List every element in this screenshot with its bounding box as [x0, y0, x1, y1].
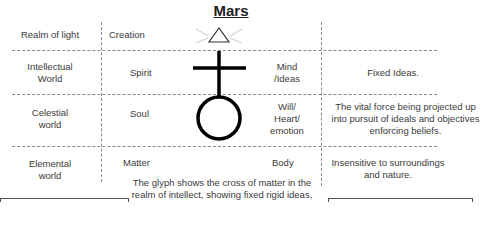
triangle-icon: [209, 28, 229, 42]
aspect-label-spirit: Spirit: [130, 67, 152, 79]
realm-label-celestial: Celestial world: [0, 107, 100, 131]
glyph-description: The glyph shows the cross of matter in t…: [122, 177, 322, 201]
bottom-right-box: [328, 198, 473, 202]
realm-label-light: Realm of light: [0, 29, 100, 41]
bottom-left-box: [0, 198, 129, 202]
meaning-label-vital-force: The vital force being projected up into …: [323, 101, 484, 137]
aspect-label-soul: Soul: [130, 108, 149, 120]
realm-label-intellectual: Intellectual World: [0, 61, 100, 85]
faculty-label-mind: Mind /Ideas: [262, 61, 312, 85]
circle-icon: [198, 97, 240, 139]
aspect-label-matter: Matter: [123, 157, 150, 169]
faculty-label-body: Body: [272, 157, 294, 169]
meaning-label-fixed-ideas: Fixed Ideas.: [323, 67, 463, 79]
cross-icon: [193, 51, 246, 97]
faculty-label-will: Will/ Heart/ emotion: [262, 101, 312, 137]
realm-label-elemental: Elemental world: [0, 158, 100, 182]
light-rays-icon: [196, 29, 242, 43]
aspect-label-creation: Creation: [109, 29, 145, 41]
meaning-label-insensitive: Insensitive to surroundings and nature.: [323, 157, 453, 181]
